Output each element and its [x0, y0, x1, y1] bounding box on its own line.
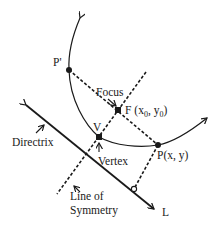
point-p-dot — [155, 142, 161, 148]
perpendicular-line — [134, 145, 158, 189]
symmetry-caption-line1: Line of — [70, 190, 104, 202]
vertex-caption: Vertex — [98, 155, 128, 167]
vertex-dot — [96, 134, 102, 140]
point-p-label: P(x, y) — [157, 149, 188, 162]
focus-pointer-arrow — [108, 99, 116, 106]
focal-chord-line — [69, 70, 158, 145]
right-angle-marker — [131, 186, 136, 191]
point-p-prime-dot — [66, 67, 72, 73]
focus-dot — [115, 107, 121, 113]
parabola-diagram: P' Focus F (x0, y0) V Vertex P(x, y) Dir… — [0, 0, 218, 232]
focus-label: F (x0, y0) — [125, 104, 167, 119]
vertex-label: V — [93, 121, 102, 133]
focus-caption: Focus — [96, 86, 124, 98]
directrix-caption: Directrix — [12, 136, 54, 148]
directrix-end-label: L — [162, 206, 169, 218]
symmetry-caption-line2: Symmetry — [70, 204, 118, 217]
p-prime-label: P' — [53, 56, 61, 68]
directrix-pointer-arrow — [36, 125, 44, 133]
